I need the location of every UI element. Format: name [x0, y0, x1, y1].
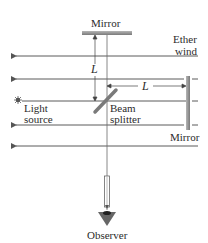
observer-eye-icon	[98, 211, 116, 226]
beam-splitter-label-line2: splitter	[110, 113, 141, 125]
ether-wind-label-line2: wind	[175, 45, 197, 57]
side-mirror-label: Mirror	[170, 131, 199, 143]
observer-label: Observer	[87, 229, 127, 241]
top-mirror-label: Mirror	[91, 17, 120, 29]
horizontal-length-label: L	[142, 80, 149, 92]
light-source-icon	[14, 96, 22, 104]
eyepiece-tube	[105, 176, 110, 209]
vertical-length-label: L	[91, 63, 98, 75]
top-mirror	[82, 31, 132, 35]
light-source-label-line2: source	[24, 113, 53, 125]
ether-wind-label-line1: Ether	[173, 33, 197, 45]
side-mirror	[186, 76, 190, 130]
